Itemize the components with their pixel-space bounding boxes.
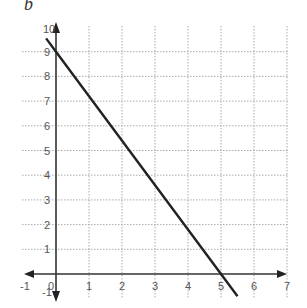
y-tick-label: 8 (44, 70, 50, 82)
x-axis-right-arrow-icon (277, 270, 287, 278)
x-tick-label: 5 (218, 280, 224, 292)
x-tick-label: -1 (20, 280, 30, 292)
x-tick-label: 6 (251, 280, 257, 292)
data-line (46, 38, 237, 296)
y-tick-label: 4 (44, 169, 50, 181)
line-graph: -101234567-112345678910 (0, 0, 307, 308)
y-tick-label: 10 (43, 23, 55, 35)
y-tick-label: 3 (44, 194, 50, 206)
y-tick-label: 1 (44, 243, 50, 255)
x-axis-left-arrow-icon (24, 270, 34, 278)
x-tick-label: 3 (152, 280, 158, 292)
x-tick-label: 2 (119, 280, 125, 292)
x-tick-label: 4 (185, 280, 191, 292)
y-tick-label: 6 (44, 120, 50, 132)
x-tick-label: 1 (86, 280, 92, 292)
y-tick-label: 9 (44, 46, 50, 58)
y-tick-label: 2 (44, 219, 50, 231)
x-tick-label: 7 (284, 280, 290, 292)
y-axis-down-arrow-icon (52, 291, 60, 302)
y-tick-label: 7 (44, 95, 50, 107)
y-tick-label: -1 (42, 286, 52, 298)
y-tick-label: 5 (44, 145, 50, 157)
